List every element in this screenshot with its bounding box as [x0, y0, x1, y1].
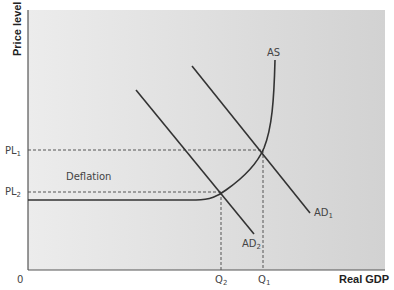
pl2-label: PL2 [5, 186, 21, 199]
q1-label: Q1 [258, 274, 270, 287]
ad-as-deflation-chart: Price level Real GDP 0 PL1 PL2 Q2 Q1 AS … [0, 0, 394, 290]
plot-area [28, 10, 385, 270]
as-label: AS [267, 47, 280, 58]
y-axis-label: Price level [11, 2, 23, 56]
origin-label: 0 [17, 274, 23, 285]
deflation-annotation: Deflation [66, 171, 111, 182]
pl1-label: PL1 [5, 145, 21, 158]
q2-label: Q2 [215, 274, 227, 287]
x-axis-label: Real GDP [339, 273, 389, 285]
